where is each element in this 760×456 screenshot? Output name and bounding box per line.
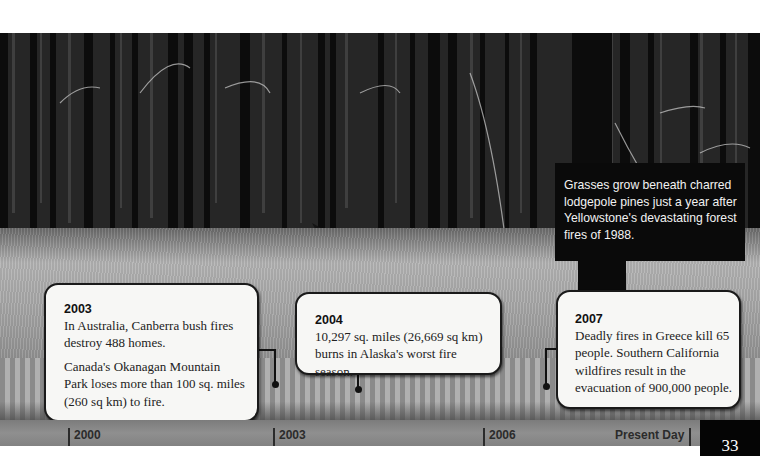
tick-2006 bbox=[483, 428, 485, 446]
axis-label-2003: 2003 bbox=[279, 428, 306, 442]
page-number: 33 bbox=[700, 436, 760, 456]
timeline-dot-2004 bbox=[355, 386, 362, 393]
caption-post bbox=[578, 261, 626, 291]
timeline-event-2004: 2004 10,297 sq. miles (26,669 sq km) bur… bbox=[295, 292, 502, 375]
timeline-ruler bbox=[0, 420, 700, 446]
timeline-dot-2007 bbox=[543, 383, 550, 390]
event-year: 2004 bbox=[315, 312, 492, 328]
tick-2000 bbox=[68, 428, 70, 446]
photo-caption: Grasses grow beneath charred lodgepole p… bbox=[555, 163, 745, 261]
tick-2003 bbox=[273, 428, 275, 446]
event-year: 2007 bbox=[575, 311, 733, 327]
event-text: Canada's Okanagan Mountain Park loses mo… bbox=[64, 358, 247, 410]
event-text: In Australia, Canberra bush fires destro… bbox=[64, 317, 247, 352]
tick-present bbox=[689, 428, 691, 446]
page-top-margin bbox=[0, 0, 760, 33]
axis-label-present: Present Day bbox=[615, 428, 684, 442]
event-year: 2003 bbox=[64, 301, 247, 317]
event-text: Deadly fires in Greece kill 65 people. S… bbox=[575, 327, 733, 397]
timeline-dot-2003 bbox=[272, 381, 279, 388]
event-text: 10,297 sq. miles (26,669 sq km) burns in… bbox=[315, 328, 492, 380]
timeline-event-2003: 2003 In Australia, Canberra bush fires d… bbox=[44, 283, 259, 422]
timeline-event-2007: 2007 Deadly fires in Greece kill 65 peop… bbox=[556, 290, 741, 409]
axis-label-2006: 2006 bbox=[489, 428, 516, 442]
connector-2003 bbox=[259, 349, 276, 384]
axis-label-2000: 2000 bbox=[74, 428, 101, 442]
